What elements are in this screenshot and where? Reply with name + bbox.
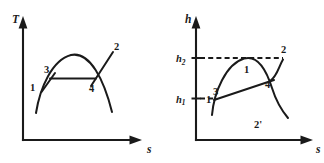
left-y-axis-label: T bbox=[12, 13, 20, 25]
right-point-label-2-prime: 2' bbox=[254, 119, 262, 130]
right-point-label-2: 2 bbox=[281, 44, 286, 55]
right-x-axis-arrow-icon bbox=[301, 135, 314, 144]
right-y-tick-label-h2: h2 bbox=[176, 53, 186, 67]
left-x-axis-arrow-icon bbox=[130, 135, 143, 144]
right-chart-group: h s h2 h1 1 3 1 4 2 2' bbox=[176, 13, 321, 155]
left-y-axis-arrow-icon bbox=[19, 16, 28, 29]
left-point-label-4: 4 bbox=[89, 83, 95, 94]
right-y-tick-label-h1: h1 bbox=[176, 94, 186, 108]
right-point-label-1-upper: 1 bbox=[244, 64, 249, 75]
left-chart-group: T s 1 3 4 2 bbox=[12, 13, 152, 155]
diagram-svg: T s 1 3 4 2 h s h2 h1 bbox=[0, 0, 324, 163]
left-point-label-2: 2 bbox=[114, 41, 119, 52]
figure-canvas: T s 1 3 4 2 h s h2 h1 bbox=[0, 0, 324, 163]
left-point-label-1: 1 bbox=[30, 82, 35, 93]
right-line-4-2 bbox=[270, 60, 283, 82]
right-point-label-1-lower: 1 bbox=[206, 94, 211, 105]
right-point-label-3: 3 bbox=[213, 86, 218, 97]
left-x-axis-label: s bbox=[146, 143, 152, 155]
left-point-label-3: 3 bbox=[44, 64, 49, 75]
right-y-axis-label: h bbox=[185, 13, 191, 25]
right-x-axis-label: s bbox=[315, 143, 321, 155]
right-y-axis-arrow-icon bbox=[192, 16, 201, 29]
right-point-label-4: 4 bbox=[265, 79, 271, 90]
